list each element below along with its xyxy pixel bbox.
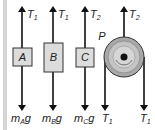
tension-label-pulley: T2 xyxy=(129,9,140,21)
block-c-label: C xyxy=(76,52,94,63)
pulley-axle-icon xyxy=(121,54,128,61)
pulley-group xyxy=(104,9,144,108)
weight-label-a: mAg xyxy=(11,113,31,125)
rope-tension-label-right: T1 xyxy=(140,113,151,125)
pulley-label: P xyxy=(97,31,107,42)
block-b-label: B xyxy=(44,52,63,63)
rope-tension-label-left: T1 xyxy=(102,113,113,125)
tension-label-b: T1 xyxy=(58,9,69,21)
weight-label-c: mCg xyxy=(74,113,94,125)
free-body-diagram: A B C P T1 T1 T2 T2 mAg mBg mCg T1 T1 xyxy=(0,0,155,130)
block-a-label: A xyxy=(13,52,32,63)
weight-label-b: mBg xyxy=(42,113,62,125)
tension-label-a: T1 xyxy=(27,9,38,21)
tension-label-c: T2 xyxy=(90,9,101,21)
